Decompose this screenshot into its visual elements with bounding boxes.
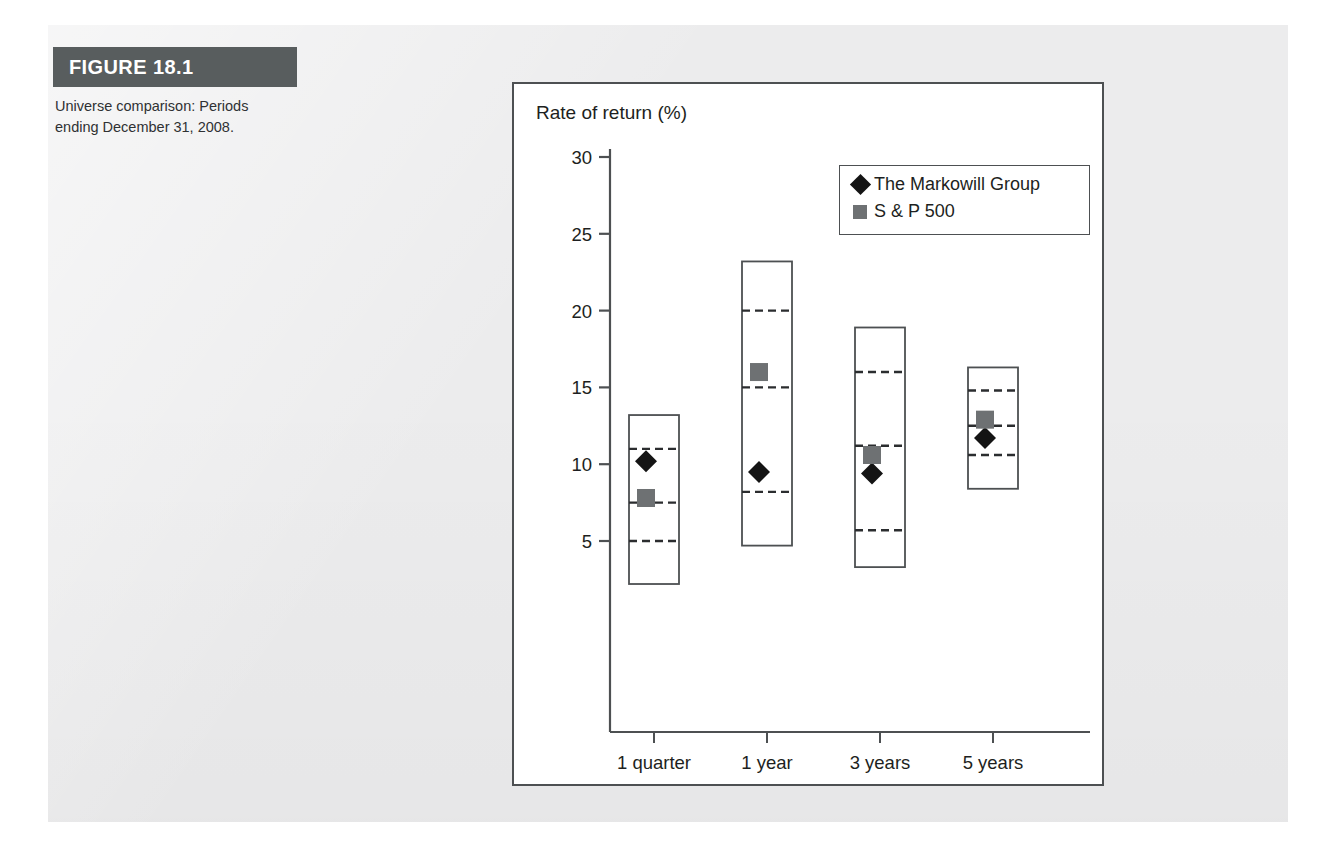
- figure-label: FIGURE 18.1: [69, 56, 193, 79]
- box-group: [742, 261, 792, 545]
- chart-legend: The Markowill Group S & P 500: [839, 165, 1090, 235]
- y-tick-label: 10: [571, 454, 592, 475]
- figure-caption: Universe comparison: Periods ending Dece…: [55, 96, 285, 138]
- y-tick-label: 25: [571, 224, 592, 245]
- y-tick-label: 30: [571, 147, 592, 168]
- marker-square: [637, 489, 655, 507]
- x-tick-label: 3 years: [850, 752, 911, 773]
- figure-page: FIGURE 18.1 Universe comparison: Periods…: [0, 0, 1327, 864]
- x-tick-label: 1 quarter: [617, 752, 691, 773]
- square-marker-icon: [853, 205, 867, 219]
- marker-square: [863, 446, 881, 464]
- legend-label-markowill: The Markowill Group: [874, 174, 1040, 195]
- chart-frame: Rate of return (%) 510152025301 quarter1…: [512, 82, 1104, 786]
- legend-item-markowill: The Markowill Group: [853, 174, 1040, 195]
- y-tick-label: 5: [582, 531, 592, 552]
- y-tick-label: 20: [571, 301, 592, 322]
- figure-label-band: FIGURE 18.1: [53, 47, 297, 87]
- legend-label-sp500: S & P 500: [874, 201, 955, 222]
- box-rect: [742, 261, 792, 545]
- x-tick-label: 1 year: [741, 752, 792, 773]
- legend-item-sp500: S & P 500: [853, 201, 955, 222]
- x-tick-label: 5 years: [963, 752, 1024, 773]
- y-tick-label: 15: [571, 377, 592, 398]
- diamond-marker-icon: [850, 174, 871, 195]
- marker-square: [750, 363, 768, 381]
- marker-square: [976, 411, 994, 429]
